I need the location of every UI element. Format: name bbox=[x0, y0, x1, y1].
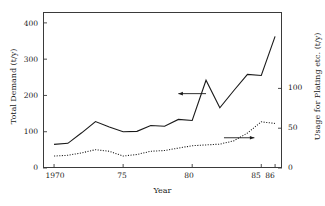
xtick-86: 86 bbox=[257, 172, 283, 180]
y-axis-left-title: Total Demand (t/y) bbox=[9, 22, 18, 152]
series-plating-usage-line bbox=[54, 122, 275, 156]
ytick-right-100: 100 bbox=[288, 84, 312, 92]
left-axis-ticks bbox=[43, 23, 47, 168]
annotation-arrows bbox=[178, 92, 254, 140]
xtick-1970: 1970 bbox=[38, 172, 72, 180]
x-axis-title: Year bbox=[43, 186, 282, 195]
ytick-left-0: 0 bbox=[9, 164, 38, 172]
ytick-right-0: 0 bbox=[288, 164, 312, 172]
chart-figure: 0 100 200 300 400 0 50 100 1970 75 80 85… bbox=[0, 0, 325, 206]
right-axis-ticks bbox=[278, 88, 282, 168]
xtick-75: 75 bbox=[108, 172, 136, 180]
y-axis-right-title: Usage for Plating etc. (t/y) bbox=[313, 22, 322, 152]
xtick-80: 80 bbox=[175, 172, 203, 180]
series-total-demand-line bbox=[54, 36, 275, 144]
ytick-right-50: 50 bbox=[288, 124, 312, 132]
chart-plot-svg bbox=[43, 12, 282, 168]
x-axis-ticks bbox=[54, 164, 275, 168]
